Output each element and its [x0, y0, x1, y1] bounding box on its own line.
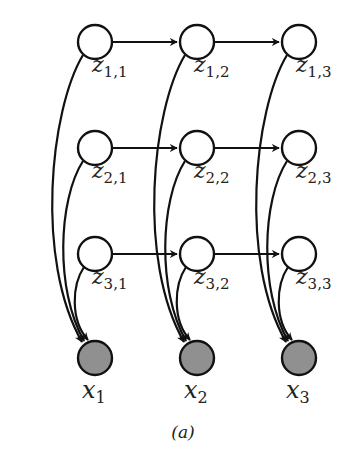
emission-edges [52, 55, 292, 342]
node-x2 [180, 341, 214, 375]
edge-z33-x3 [279, 267, 292, 340]
label-z33: z3,3 [295, 264, 331, 293]
figure-caption: (a) [171, 422, 194, 442]
label-z13: z1,3 [295, 52, 331, 81]
node-x1 [78, 341, 112, 375]
label-z31: z3,1 [91, 264, 127, 293]
label-z22: z2,2 [193, 158, 229, 187]
label-x3: x3 [286, 376, 310, 407]
label-z12: z1,2 [193, 52, 229, 81]
edge-z31-x1 [75, 267, 88, 340]
label-z23: z2,3 [295, 158, 331, 187]
label-z21: z2,1 [91, 158, 127, 187]
label-z32: z3,2 [193, 264, 229, 293]
label-x2: x2 [184, 376, 208, 407]
node-x3 [282, 341, 316, 375]
label-z11: z1,1 [91, 52, 127, 81]
observed-nodes [78, 341, 316, 375]
observed-labels: x1 x2 x3 [82, 376, 310, 407]
label-x1: x1 [82, 376, 106, 407]
graphical-model-diagram: z1,1 z1,2 z1,3 z2,1 z2,2 z2,3 z3,1 z3,2 … [0, 0, 354, 467]
edge-z32-x2 [177, 267, 190, 340]
